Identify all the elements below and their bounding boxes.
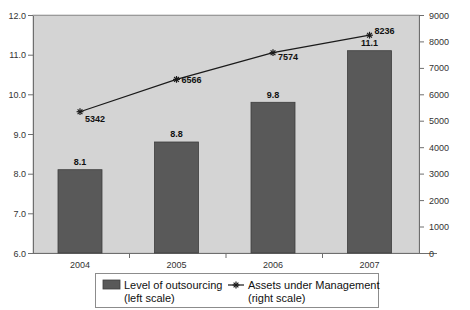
category-label-2007: 2007 — [359, 260, 379, 270]
right-axis-tick-label: 9000 — [429, 11, 449, 21]
legend-label-level-of-outsourcing: Level of outsourcing — [124, 279, 222, 291]
bar-data-label-2006: 9.8 — [267, 90, 280, 100]
line-data-label-2004: 5342 — [85, 114, 105, 124]
left-axis-ticks — [28, 16, 33, 254]
category-axis-labels: 2004 2005 2006 2007 — [70, 260, 380, 270]
bar-2004[interactable] — [58, 170, 102, 253]
right-axis-tick-label: 7000 — [429, 63, 449, 73]
bar-data-label-2005: 8.8 — [170, 129, 183, 139]
category-label-2005: 2005 — [166, 260, 186, 270]
left-axis-tick-label: 9.0 — [13, 130, 26, 140]
bar-2007[interactable] — [348, 51, 392, 253]
line-data-label-2005: 6566 — [182, 75, 202, 85]
left-axis-tick-label: 8.0 — [13, 169, 26, 179]
right-axis-tick-label: 3000 — [429, 169, 449, 179]
line-marker-2004[interactable] — [77, 108, 84, 115]
combo-chart: 12.0 11.0 10.0 9.0 8.0 7.0 6.0 9000 8000… — [0, 0, 470, 310]
left-axis-labels: 12.0 11.0 10.0 9.0 8.0 7.0 6.0 — [8, 11, 26, 259]
line-marker-2006[interactable] — [270, 49, 277, 56]
bar-2006[interactable] — [251, 102, 295, 253]
bar-data-label-2007: 11.1 — [361, 38, 378, 48]
line-marker-2007[interactable] — [366, 32, 373, 39]
line-data-label-2007: 8236 — [375, 26, 395, 36]
legend-bar-swatch-icon — [103, 280, 120, 289]
left-axis-tick-label: 11.0 — [9, 50, 26, 60]
right-axis-tick-label: 5000 — [429, 116, 449, 126]
bar-data-label-2004: 8.1 — [74, 157, 87, 167]
right-axis-tick-label: 2000 — [429, 196, 449, 206]
right-axis-tick-label: 4000 — [429, 143, 449, 153]
right-axis-tick-label: 6000 — [429, 90, 449, 100]
left-axis-tick-label: 6.0 — [13, 249, 26, 259]
right-axis-tick-label: 8000 — [429, 37, 449, 47]
category-label-2004: 2004 — [70, 260, 90, 270]
left-axis-tick-label: 10.0 — [8, 90, 26, 100]
line-data-label-2006: 7574 — [278, 52, 298, 62]
legend-label-assets-under-management: Assets under Management — [248, 279, 379, 291]
left-axis-tick-label: 12.0 — [8, 11, 26, 21]
left-axis-tick-label: 7.0 — [13, 209, 26, 219]
line-marker-2005[interactable] — [173, 76, 180, 83]
right-axis-tick-label: 0 — [429, 249, 434, 259]
right-axis-tick-label: 1000 — [429, 222, 449, 232]
legend-sublabel-right-scale: (right scale) — [248, 292, 305, 304]
legend-sublabel-left-scale: (left scale) — [124, 292, 175, 304]
right-axis-labels: 9000 8000 7000 6000 5000 4000 3000 2000 … — [429, 11, 449, 259]
category-label-2006: 2006 — [263, 260, 283, 270]
chart-container: 12.0 11.0 10.0 9.0 8.0 7.0 6.0 9000 8000… — [0, 0, 470, 310]
chart-legend: Level of outsourcing (left scale) Assets… — [96, 274, 380, 308]
bar-2005[interactable] — [155, 142, 199, 253]
